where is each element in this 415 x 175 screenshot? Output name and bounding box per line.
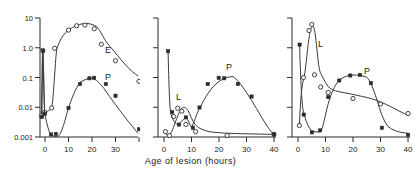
series-label-P: P [105,72,111,82]
panel-1-plot: 10 1.0 0.1 0.01 0.001 0 10 20 30 [0,0,140,175]
panel-2-plot: 0 10 20 30 40 L [140,0,280,175]
xtick-label-30: 30 [111,145,120,154]
chart-panel-2: 0 10 20 30 40 L [140,0,280,175]
series-label-L: L [176,92,181,102]
ytick-label-0-001: 0.001 [14,133,33,142]
x-axis-title: Age of lesion (hours) [0,156,415,166]
figure-container: 10 1.0 0.1 0.01 0.001 0 10 20 30 [0,0,415,175]
xtick-label-10: 10 [321,145,330,154]
series-label-P: P [364,66,370,76]
chart-panel-1: 10 1.0 0.1 0.01 0.001 0 10 20 30 [0,0,140,175]
panel-3-series-P: P [298,43,410,136]
panel-1-series-E: E [39,23,140,118]
panel-3-xtick-labels: 0 10 20 30 40 [296,145,413,154]
ytick-label-10: 10 [25,14,33,23]
panel-2-series-L: L [163,92,276,138]
xtick-label-20: 20 [88,145,97,154]
ytick-label-0-01: 0.01 [18,103,33,112]
xtick-label-30: 30 [242,145,251,154]
series-label-E: E [105,45,111,55]
xtick-label-10: 10 [64,145,73,154]
panel-1-ytick-labels: 10 1.0 0.1 0.01 0.001 [14,14,33,142]
series-label-L: L [318,39,323,49]
panel-2-xtick-labels: 0 10 20 30 40 [162,145,279,154]
panel-2-axes [153,18,276,142]
panel-3-plot: 0 10 20 30 40 L [278,0,415,175]
panel-1-xtick-labels: 0 10 20 30 [43,145,121,154]
chart-panel-3: 0 10 20 30 40 L [278,0,415,175]
xtick-label-30: 30 [376,145,385,154]
ytick-label-1: 1.0 [23,44,33,53]
xtick-label-0: 0 [162,145,167,154]
ytick-label-0-1: 0.1 [23,74,33,83]
xtick-label-20: 20 [349,145,358,154]
xtick-label-40: 40 [404,145,413,154]
xtick-label-0: 0 [296,145,301,154]
panel-3-axes [287,18,410,142]
panel-1-axes [35,18,139,142]
xtick-label-10: 10 [187,145,196,154]
series-label-P: P [226,62,232,72]
xtick-label-0: 0 [43,145,48,154]
xtick-label-20: 20 [215,145,224,154]
x-axis-title-text: Age of lesion (hours) [145,156,236,166]
panel-2-series-P: P [167,50,276,136]
